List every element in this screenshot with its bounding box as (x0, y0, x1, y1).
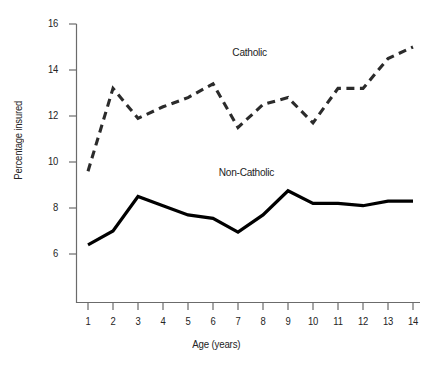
series-annotation-catholic-text: Catholic (233, 46, 267, 58)
x-tick-label-1: 1 (79, 315, 96, 327)
y-axis-title-text: Percentage insured (12, 101, 24, 180)
x-tick-label-6: 6 (204, 315, 221, 327)
x-tick-label-13: 13 (379, 315, 396, 327)
series-annotation-catholic: Catholic (196, 46, 304, 58)
x-tick-label-4: 4 (154, 315, 171, 327)
y-axis-title: Percentage insured (12, 80, 24, 200)
y-tick-label-8: 8 (41, 201, 58, 213)
series-line-non-catholic (88, 191, 413, 245)
y-axis-ticks (69, 24, 77, 254)
x-axis-title: Age (years) (0, 338, 433, 350)
series-annotation-non-catholic-text: Non-Catholic (218, 166, 273, 178)
series-line-catholic (88, 47, 413, 171)
series-annotation-non-catholic: Non-Catholic (190, 166, 302, 178)
y-tick-label-10: 10 (41, 155, 58, 167)
x-tick-label-11: 11 (329, 315, 346, 327)
chart-figure: 16 14 12 10 8 6 1 2 3 4 5 6 7 8 9 10 11 … (0, 0, 433, 376)
y-tick-label-12: 12 (41, 109, 58, 121)
y-tick-label-6: 6 (41, 247, 58, 259)
x-axis-title-text: Age (years) (192, 338, 240, 350)
x-axis-ticks (88, 303, 413, 311)
x-tick-label-8: 8 (254, 315, 271, 327)
x-tick-label-9: 9 (279, 315, 296, 327)
x-tick-label-3: 3 (129, 315, 146, 327)
y-tick-label-16: 16 (41, 17, 58, 29)
x-tick-label-7: 7 (229, 315, 246, 327)
y-tick-label-14: 14 (41, 63, 58, 75)
x-tick-label-12: 12 (354, 315, 371, 327)
x-tick-label-10: 10 (304, 315, 321, 327)
x-tick-label-14: 14 (404, 315, 421, 327)
x-tick-label-5: 5 (179, 315, 196, 327)
x-tick-label-2: 2 (104, 315, 121, 327)
